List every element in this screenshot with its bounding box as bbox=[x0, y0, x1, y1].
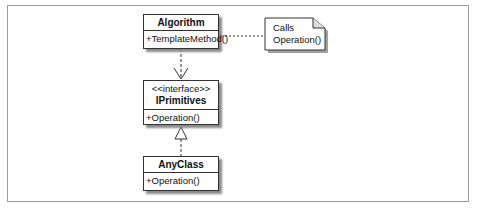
class-anyclass[interactable]: AnyClass +Operation() bbox=[143, 156, 219, 191]
class-header: Algorithm bbox=[144, 15, 218, 31]
class-name: Algorithm bbox=[144, 17, 218, 29]
note[interactable]: Calls Operation() bbox=[265, 18, 325, 50]
operation: +Operation() bbox=[146, 175, 216, 187]
class-name: AnyClass bbox=[144, 159, 218, 171]
operation: +TemplateMethod() bbox=[146, 33, 216, 45]
class-iprimitives[interactable]: <<interface>> IPrimitives +Operation() bbox=[143, 80, 219, 125]
class-name: IPrimitives bbox=[144, 95, 218, 107]
class-stereotype: <<interface>> bbox=[144, 83, 218, 95]
note-line: Calls bbox=[273, 22, 321, 34]
class-operations: +Operation() bbox=[144, 173, 218, 189]
operation: +Operation() bbox=[146, 112, 216, 124]
class-operations: +TemplateMethod() bbox=[144, 31, 218, 47]
note-text: Calls Operation() bbox=[273, 22, 321, 46]
class-header: <<interface>> IPrimitives bbox=[144, 81, 218, 110]
connectors bbox=[0, 0, 477, 209]
class-algorithm[interactable]: Algorithm +TemplateMethod() bbox=[143, 14, 219, 49]
note-line: Operation() bbox=[273, 34, 321, 46]
class-header: AnyClass bbox=[144, 157, 218, 173]
class-operations: +Operation() bbox=[144, 110, 218, 126]
hollow-triangle-icon bbox=[175, 127, 187, 139]
